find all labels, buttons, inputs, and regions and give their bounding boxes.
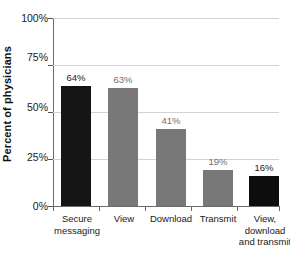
y-axis-ticks: 100% 75% 50% 25% 0% <box>0 0 48 259</box>
x-tick-mark-0 <box>53 207 54 211</box>
x-axis-labels: Secure messaging View Download Transmit … <box>53 213 280 259</box>
gridline-75 <box>53 65 279 66</box>
x-tick-mark-2 <box>145 207 146 211</box>
x-label-view-download-transmit-line2: download <box>236 225 290 237</box>
x-tick-mark-1 <box>99 207 100 211</box>
x-label-view-download-transmit-line1: View, <box>236 213 290 225</box>
x-tick-mark-5 <box>279 207 280 211</box>
bar-value-download: 41% <box>148 116 194 126</box>
bar-download[interactable] <box>156 129 186 206</box>
x-label-secure-messaging: Secure messaging <box>53 213 101 236</box>
bar-value-view-download-transmit: 16% <box>241 163 287 173</box>
x-tick-mark-4 <box>237 207 238 211</box>
x-label-view-download-transmit-line3: and transmit <box>236 236 290 248</box>
x-axis-line <box>53 206 280 207</box>
bar-view[interactable] <box>108 88 138 206</box>
bar-value-view: 63% <box>100 75 146 85</box>
x-label-view-line1: View <box>100 213 148 225</box>
x-label-download-line1: Download <box>145 213 197 225</box>
x-label-download: Download <box>145 213 197 225</box>
x-label-view: View <box>100 213 148 225</box>
plot-area: 64% 63% 41% 19% 16% <box>53 18 279 206</box>
y-tick-label-75: 75% <box>4 52 48 63</box>
gridline-100 <box>53 18 279 19</box>
bar-chart: Percent of physicians 100% 75% 50% 25% 0… <box>0 0 290 259</box>
bar-view-download-transmit[interactable] <box>249 176 279 206</box>
bar-value-transmit: 19% <box>195 157 241 167</box>
bar-secure-messaging[interactable] <box>61 86 91 206</box>
x-tick-mark-3 <box>191 207 192 211</box>
x-label-secure-messaging-line1: Secure <box>53 213 101 225</box>
bar-transmit[interactable] <box>203 170 233 206</box>
x-label-secure-messaging-line2: messaging <box>53 225 101 237</box>
bar-value-secure-messaging: 64% <box>53 73 99 83</box>
x-label-view-download-transmit: View, download and transmit <box>236 213 290 248</box>
y-tick-label-50: 50% <box>4 102 48 113</box>
y-tick-label-0: 0% <box>4 201 48 212</box>
y-tick-label-100: 100% <box>4 13 48 24</box>
y-tick-label-25: 25% <box>4 152 48 163</box>
